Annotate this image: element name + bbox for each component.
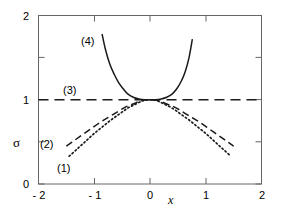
curve-label-2: (2)	[40, 139, 53, 150]
curve-4	[102, 34, 192, 100]
x-tick-label-2: 2	[251, 190, 273, 201]
x-tick-label-1: 1	[195, 190, 217, 201]
chart-figure: 2 1 0 σ - 2 - 1 0 1 2 x (1) (2) (3) (4)	[0, 0, 283, 219]
y-tick-label-1: 1	[15, 95, 29, 106]
x-axis-title: x	[168, 194, 173, 206]
x-tick-label--2: - 2	[27, 190, 51, 201]
curve-1	[69, 100, 231, 156]
y-tick-label-0: 0	[15, 179, 29, 190]
curve-label-4: (4)	[81, 36, 94, 47]
plot-canvas	[0, 0, 283, 219]
x-tick-label-0: 0	[139, 190, 161, 201]
y-tick-label-2: 2	[15, 11, 29, 22]
x-tick-label--1: - 1	[83, 190, 107, 201]
curve-2	[66, 100, 233, 146]
y-axis-title: σ	[13, 136, 20, 149]
curve-label-1: (1)	[57, 163, 70, 174]
curve-label-3: (3)	[63, 85, 76, 96]
